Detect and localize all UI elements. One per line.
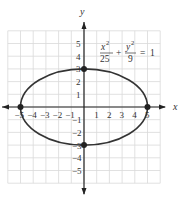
y-tick-label: 4	[76, 52, 81, 62]
y-tick-label: 1	[76, 90, 81, 100]
equation-y-denominator: 9	[128, 54, 133, 64]
y-tick-label: 5	[76, 39, 81, 49]
x-tick-label: −2	[53, 110, 63, 120]
equation-label: x 2 25 + y 2 9 = 1	[100, 39, 155, 64]
x-axis-right-arrow-icon	[159, 105, 166, 110]
x-tick-label: 3	[120, 110, 125, 120]
y-axis-label: y	[79, 6, 85, 17]
intercept-point	[145, 104, 151, 110]
intercept-point	[18, 104, 24, 110]
intercept-point	[81, 66, 87, 72]
x-tick-label: 4	[132, 110, 137, 120]
ellipse-chart: x y −5−4−3−2−112345 54321−1−2−3−4−5 x 2 …	[0, 0, 181, 200]
equation-x-exponent: 2	[106, 39, 109, 46]
equation-x-denominator: 25	[100, 54, 110, 64]
equation-rhs: 1	[150, 48, 155, 58]
y-tick-label: −5	[72, 166, 82, 176]
intercept-point	[81, 142, 87, 148]
y-tick-label: −2	[72, 128, 82, 138]
x-tick-label: 2	[107, 110, 112, 120]
y-axis-up-arrow-icon	[82, 22, 87, 29]
equation-y-exponent: 2	[131, 39, 134, 46]
x-tick-label: −3	[40, 110, 50, 120]
y-axis-down-arrow-icon	[82, 188, 87, 195]
equation-equals: =	[140, 48, 145, 58]
x-axis-left-arrow-icon	[2, 105, 9, 110]
x-tick-labels: −5−4−3−2−112345	[15, 110, 151, 120]
equation-plus: +	[116, 48, 121, 58]
y-tick-label: 2	[76, 77, 81, 87]
x-tick-label: 1	[94, 110, 99, 120]
y-tick-label: −4	[72, 153, 82, 163]
y-tick-label: −1	[72, 115, 82, 125]
x-tick-label: −4	[27, 110, 37, 120]
axes: x y	[2, 6, 178, 195]
x-axis-label: x	[172, 101, 178, 112]
